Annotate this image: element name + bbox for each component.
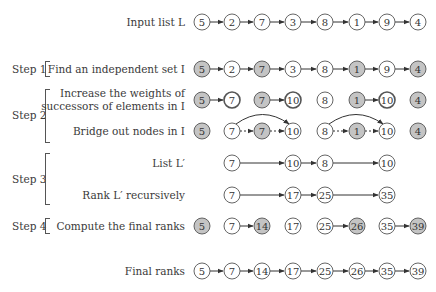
svg-text:8: 8 — [322, 17, 328, 28]
step4-node-0: 5 — [194, 218, 210, 234]
step2a-node-1: 7 — [224, 92, 240, 108]
svg-text:14: 14 — [256, 266, 269, 277]
bridge-arrow — [329, 115, 383, 125]
svg-text:17: 17 — [287, 266, 300, 277]
svg-text:10: 10 — [287, 126, 300, 137]
svg-text:14: 14 — [256, 221, 269, 232]
step4-node-4: 25 — [317, 218, 333, 234]
final-node-4: 25 — [317, 263, 333, 279]
svg-text:10: 10 — [287, 158, 300, 169]
step4-node-3: 17 — [285, 218, 301, 234]
step2b-node-3: 10 — [285, 123, 301, 139]
rank_lprime-node-1: 17 — [285, 187, 301, 203]
svg-text:1: 1 — [354, 126, 360, 137]
step1-node-1: 2 — [224, 61, 240, 77]
svg-text:9: 9 — [384, 17, 390, 28]
svg-text:8: 8 — [322, 158, 328, 169]
svg-text:10: 10 — [381, 158, 394, 169]
step4-node-7: 39 — [410, 218, 426, 234]
step2b-node-4: 8 — [317, 123, 333, 139]
svg-text:7: 7 — [259, 64, 265, 75]
step2a-node-7: 4 — [410, 92, 426, 108]
svg-text:7: 7 — [259, 126, 265, 137]
input-node-7: 4 — [410, 14, 426, 30]
step2b-node-1: 7 — [224, 123, 240, 139]
svg-text:1: 1 — [354, 95, 360, 106]
svg-text:1: 1 — [354, 64, 360, 75]
svg-text:7: 7 — [229, 126, 235, 137]
input-node-1: 2 — [224, 14, 240, 30]
svg-text:4: 4 — [415, 64, 421, 75]
step1-node-6: 9 — [379, 61, 395, 77]
list_lprime-node-2: 8 — [317, 155, 333, 171]
step2b-node-6: 10 — [379, 123, 395, 139]
final-node-3: 17 — [285, 263, 301, 279]
svg-text:5: 5 — [199, 17, 205, 28]
svg-text:10: 10 — [381, 95, 394, 106]
list_lprime-node-1: 10 — [285, 155, 301, 171]
svg-text:26: 26 — [351, 221, 364, 232]
final-node-5: 26 — [349, 263, 365, 279]
svg-text:2: 2 — [229, 64, 235, 75]
svg-text:7: 7 — [229, 158, 235, 169]
list-ranking-diagram: 5273819452738194577108110457710811047108… — [0, 0, 436, 292]
svg-text:4: 4 — [415, 95, 421, 106]
step1-node-0: 5 — [194, 61, 210, 77]
input-node-0: 5 — [194, 14, 210, 30]
svg-text:5: 5 — [199, 64, 205, 75]
rank_lprime-node-0: 7 — [224, 187, 240, 203]
step2a-node-4: 8 — [317, 92, 333, 108]
input-node-4: 8 — [317, 14, 333, 30]
step4-node-6: 35 — [379, 218, 395, 234]
final-node-1: 7 — [224, 263, 240, 279]
svg-text:7: 7 — [259, 95, 265, 106]
svg-text:1: 1 — [354, 17, 360, 28]
svg-text:7: 7 — [229, 95, 235, 106]
input-node-5: 1 — [349, 14, 365, 30]
svg-text:35: 35 — [381, 221, 394, 232]
step1-node-7: 4 — [410, 61, 426, 77]
step1-node-3: 3 — [285, 61, 301, 77]
input-node-2: 7 — [254, 14, 270, 30]
final-node-0: 5 — [194, 263, 210, 279]
step1-node-4: 8 — [317, 61, 333, 77]
svg-text:25: 25 — [319, 190, 332, 201]
svg-text:39: 39 — [412, 266, 425, 277]
svg-text:7: 7 — [229, 221, 235, 232]
svg-text:17: 17 — [287, 221, 300, 232]
step2a-node-0: 5 — [194, 92, 210, 108]
step4-node-5: 26 — [349, 218, 365, 234]
svg-text:4: 4 — [415, 126, 421, 137]
step2a-node-5: 1 — [349, 92, 365, 108]
svg-text:3: 3 — [290, 17, 296, 28]
step2b-node-7: 4 — [410, 123, 426, 139]
step4-node-2: 14 — [254, 218, 270, 234]
step2b-node-5: 1 — [349, 123, 365, 139]
step1-node-2: 7 — [254, 61, 270, 77]
step2b-node-2: 7 — [254, 123, 270, 139]
svg-text:2: 2 — [229, 17, 235, 28]
svg-text:35: 35 — [381, 190, 394, 201]
svg-text:4: 4 — [415, 17, 421, 28]
final-node-7: 39 — [410, 263, 426, 279]
step1-node-5: 1 — [349, 61, 365, 77]
svg-text:10: 10 — [381, 126, 394, 137]
svg-text:25: 25 — [319, 266, 332, 277]
svg-text:26: 26 — [351, 266, 364, 277]
svg-text:7: 7 — [229, 190, 235, 201]
svg-text:5: 5 — [199, 126, 205, 137]
svg-text:8: 8 — [322, 95, 328, 106]
svg-text:5: 5 — [199, 95, 205, 106]
list_lprime-node-0: 7 — [224, 155, 240, 171]
step4-node-1: 7 — [224, 218, 240, 234]
step2a-node-2: 7 — [254, 92, 270, 108]
svg-text:7: 7 — [259, 17, 265, 28]
svg-text:35: 35 — [381, 266, 394, 277]
svg-text:5: 5 — [199, 221, 205, 232]
step2a-node-6: 10 — [379, 92, 395, 108]
svg-text:9: 9 — [384, 64, 390, 75]
svg-text:8: 8 — [322, 126, 328, 137]
input-node-3: 3 — [285, 14, 301, 30]
svg-text:39: 39 — [412, 221, 425, 232]
rank_lprime-node-2: 25 — [317, 187, 333, 203]
